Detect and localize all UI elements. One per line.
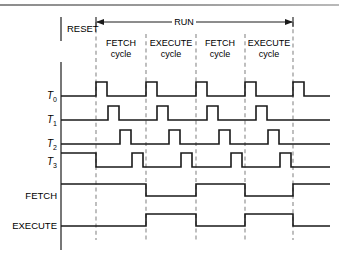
cycle-label-1-unit: cycle xyxy=(111,49,132,59)
signal-label-T0: T0 xyxy=(47,90,57,103)
signal-label-FETCH: FETCH xyxy=(25,190,57,201)
waveform-traces xyxy=(61,82,330,226)
waveform-T0 xyxy=(61,82,330,96)
timing-diagram-canvas: RUN RESET FETCH cycle EXECUTE cycle FETC… xyxy=(0,0,339,261)
cycle-labels: FETCH cycle EXECUTE cycle FETCH cycle EX… xyxy=(106,38,290,59)
run-span-arrow: RUN xyxy=(96,17,293,27)
cycle-label-3-name: FETCH xyxy=(205,38,235,48)
reset-label: RESET xyxy=(67,23,99,34)
waveform-EXECUTE xyxy=(61,214,330,226)
signal-label-EXECUTE: EXECUTE xyxy=(12,220,57,231)
signal-label-T3: T3 xyxy=(47,156,57,169)
cycle-label-4-name: EXECUTE xyxy=(248,38,291,48)
run-arrowhead-right xyxy=(285,19,293,25)
cycle-label-1-name: FETCH xyxy=(106,38,136,48)
cycle-label-3-unit: cycle xyxy=(210,49,231,59)
signal-label-T2: T2 xyxy=(47,138,57,151)
signal-labels: T0 T1 T2 T3 FETCH EXECUTE xyxy=(12,90,57,231)
cycle-label-2-unit: cycle xyxy=(161,49,182,59)
cycle-label-2-name: EXECUTE xyxy=(150,38,193,48)
signal-label-T1: T1 xyxy=(47,114,57,127)
run-label: RUN xyxy=(174,17,194,27)
timing-diagram-figure: RUN RESET FETCH cycle EXECUTE cycle FETC… xyxy=(0,0,339,261)
cycle-label-4-unit: cycle xyxy=(259,49,280,59)
waveform-FETCH xyxy=(61,184,330,196)
